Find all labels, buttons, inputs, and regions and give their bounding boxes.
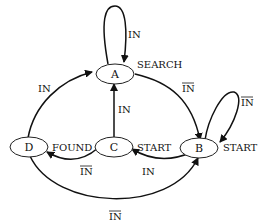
edge-c-to-a-label: IN [118, 104, 131, 115]
state-b-output: START [223, 142, 258, 153]
edge-b-to-b-label: IN [241, 97, 254, 108]
state-d-output: FOUND [52, 142, 92, 153]
state-c-label: C [110, 141, 118, 154]
state-c: C [95, 137, 133, 157]
edge-d-to-a-label: IN [38, 83, 51, 94]
edge-d-to-b [30, 156, 198, 199]
edge-b-to-b [205, 92, 239, 142]
state-b: B [180, 138, 218, 158]
state-a: A [96, 64, 134, 84]
edge-c-to-d-label: IN [80, 166, 93, 177]
edge-d-to-a [28, 72, 92, 138]
edge-d-to-b-label: IN [109, 211, 122, 222]
state-diagram: A SEARCH B START C START D FOUND IN IN I… [0, 0, 261, 224]
edge-b-to-c-label: IN [142, 166, 155, 177]
state-a-label: A [110, 68, 120, 81]
state-d-label: D [25, 141, 34, 154]
edge-a-to-b-label: IN [182, 83, 195, 94]
state-a-output: SEARCH [137, 59, 183, 70]
state-c-output: START [137, 142, 172, 153]
edge-a-to-a [104, 6, 126, 64]
state-b-label: B [195, 142, 203, 155]
state-d: D [10, 137, 48, 157]
edge-a-to-a-label: IN [128, 29, 141, 40]
